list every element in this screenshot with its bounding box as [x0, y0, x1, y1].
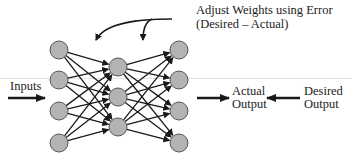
- network-graph: [0, 0, 352, 160]
- desired-output-label-2: Output: [304, 98, 339, 111]
- weight-edge: [68, 69, 108, 78]
- feedback-arrow-icon: [96, 19, 172, 40]
- adjust-weights-label: Adjust Weights using Error: [196, 4, 333, 17]
- diagram-canvas: Adjust Weights using Error (Desired – Ac…: [0, 0, 352, 160]
- weight-edge: [125, 56, 171, 91]
- weight-edge: [68, 99, 109, 109]
- inputs-label: Inputs: [10, 80, 41, 93]
- output-neuron-node: [170, 71, 188, 89]
- input-neuron-node: [50, 41, 68, 59]
- actual-output-label-2: Output: [232, 98, 267, 111]
- output-neuron-node: [170, 134, 188, 152]
- hidden-neuron-node: [109, 58, 127, 76]
- feedback-branch-arrow-icon: [143, 19, 152, 40]
- input-neuron-node: [50, 134, 68, 152]
- weight-edge: [124, 58, 173, 120]
- hidden-neuron-node: [109, 118, 127, 136]
- input-neuron-node: [50, 71, 68, 89]
- weight-edge: [66, 86, 110, 121]
- hidden-neuron-node: [109, 88, 127, 106]
- output-neuron-node: [170, 102, 188, 120]
- output-neuron-node: [170, 41, 188, 59]
- neuron-nodes: [50, 41, 188, 152]
- input-neuron-node: [50, 102, 68, 120]
- weight-edge: [125, 86, 171, 121]
- error-formula-label: (Desired – Actual): [196, 18, 288, 31]
